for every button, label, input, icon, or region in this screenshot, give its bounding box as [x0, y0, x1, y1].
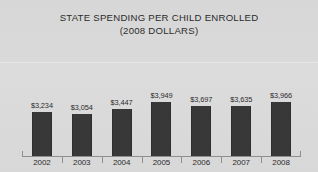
bar-value-label-2007: $3,635: [230, 95, 252, 104]
bar-2002[interactable]: [32, 112, 52, 156]
bar-slot: $3,949: [142, 96, 182, 156]
bar-value-label-2006: $3,697: [190, 95, 212, 104]
bar-slot: $3,447: [102, 96, 142, 156]
bar-slot: $3,966: [261, 96, 301, 156]
x-axis-tick: [221, 157, 222, 163]
chart-title: STATE SPENDING PER CHILD ENROLLED (2008 …: [0, 11, 318, 37]
bar-value-label-2003: $3,054: [71, 103, 93, 112]
x-tick-label-2008: 2008: [261, 158, 301, 167]
x-axis-tick-labels: 2002200320042005200620072008: [22, 158, 301, 172]
x-tick-label-2004: 2004: [102, 158, 142, 167]
x-axis-right-cap: [300, 151, 301, 157]
x-tick-label-2002: 2002: [22, 158, 62, 167]
x-tick-label-2006: 2006: [181, 158, 221, 167]
bar-slot: $3,697: [181, 96, 221, 156]
bar-value-label-2005: $3,949: [150, 91, 172, 100]
bar-2007[interactable]: [231, 106, 251, 156]
bar-2008[interactable]: [271, 102, 291, 156]
x-tick-label-2005: 2005: [142, 158, 182, 167]
bar-2006[interactable]: [191, 106, 211, 156]
x-axis-tick: [102, 157, 103, 163]
bar-slot: $3,234: [22, 96, 62, 156]
x-axis-line: [22, 156, 301, 157]
x-axis-left-cap: [22, 151, 23, 157]
bar-value-label-2004: $3,447: [111, 98, 133, 107]
bar-2004[interactable]: [112, 109, 132, 156]
chart-title-line-2: (2008 DOLLARS): [0, 24, 318, 37]
x-tick-label-2003: 2003: [62, 158, 102, 167]
x-axis-tick: [142, 157, 143, 163]
bar-slot: $3,054: [62, 96, 102, 156]
x-axis-tick: [62, 157, 63, 163]
x-axis-tick: [261, 157, 262, 163]
plot-area: $3,234$3,054$3,447$3,949$3,697$3,635$3,9…: [22, 96, 301, 156]
x-tick-label-2007: 2007: [221, 158, 261, 167]
title-divider: [0, 62, 318, 63]
bar-value-label-2002: $3,234: [31, 101, 53, 110]
bar-2005[interactable]: [151, 102, 171, 156]
bar-slot: $3,635: [221, 96, 261, 156]
bar-value-label-2008: $3,966: [270, 91, 292, 100]
bar-2003[interactable]: [72, 114, 92, 156]
bar-chart-figure: STATE SPENDING PER CHILD ENROLLED (2008 …: [0, 0, 318, 172]
x-axis-tick: [181, 157, 182, 163]
chart-title-line-1: STATE SPENDING PER CHILD ENROLLED: [0, 11, 318, 24]
